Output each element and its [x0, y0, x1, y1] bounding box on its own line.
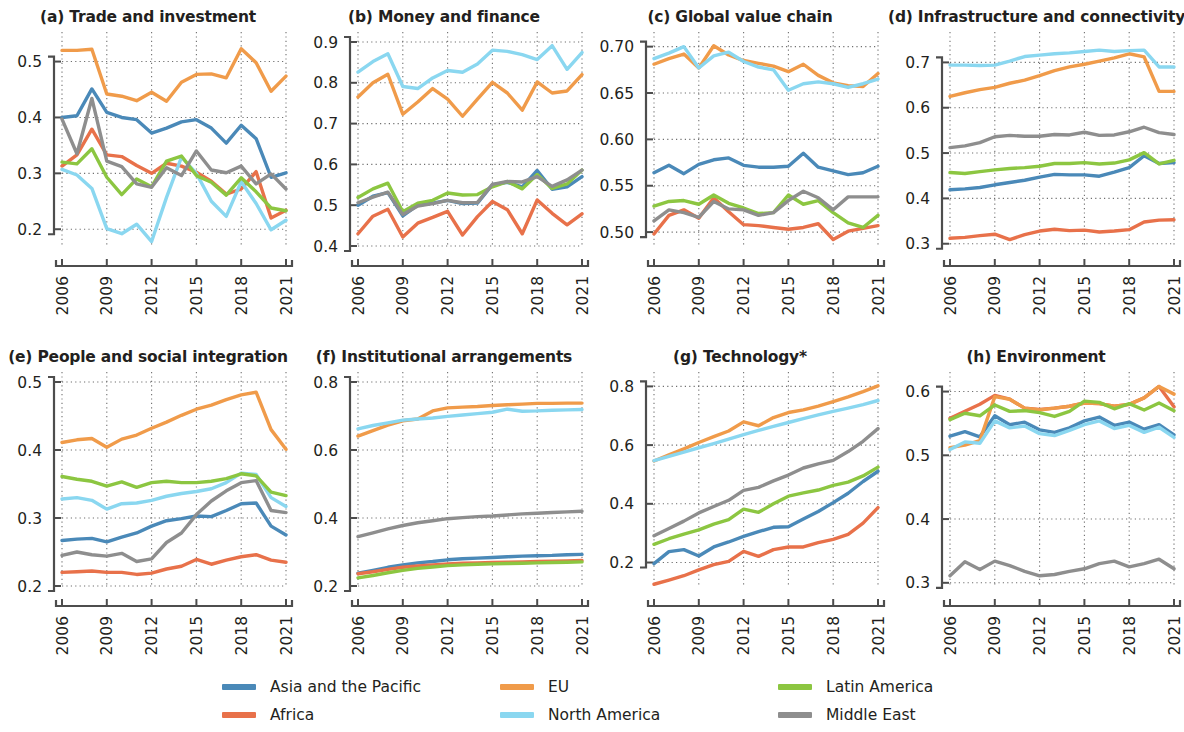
x-tick-label: 2006: [646, 616, 664, 655]
series-line-eu: [950, 54, 1174, 97]
y-tick-label: 0.4: [609, 495, 634, 513]
x-tick-label: 2018: [233, 276, 251, 315]
x-tick-label: 2018: [529, 276, 547, 315]
panel-a-x-tick-labels: 200620092012201520182021: [54, 276, 296, 315]
x-tick-label: 2009: [98, 616, 116, 655]
panel-a-plot: 0.20.30.40.5200620092012201520182021: [0, 34, 296, 330]
x-tick-label: 2009: [986, 276, 1004, 315]
x-tick-label: 2006: [942, 276, 960, 315]
legend-item-africa[interactable]: Africa: [222, 704, 314, 726]
series-line-africa: [358, 200, 582, 237]
series-line-africa: [62, 555, 286, 575]
panel-d-axes: [936, 57, 1180, 266]
series-line-latin-america: [950, 153, 1174, 174]
x-tick-label: 2009: [394, 616, 412, 655]
legend-label: EU: [548, 678, 569, 696]
panel-d-series-group: [950, 50, 1174, 239]
x-tick-label: 2015: [188, 276, 206, 315]
legend-label: Latin America: [826, 678, 933, 696]
y-tick-label: 0.4: [313, 238, 338, 256]
legend-item-north-america[interactable]: North America: [500, 704, 660, 726]
x-tick-label: 2018: [1121, 616, 1139, 655]
y-tick-label: 0.5: [905, 145, 930, 163]
legend-item-latin-america[interactable]: Latin America: [778, 676, 933, 698]
legend-swatch-icon: [222, 684, 256, 690]
x-tick-label: 2006: [942, 616, 960, 655]
panel-b-series-group: [358, 46, 582, 237]
x-tick-label: 2006: [54, 616, 72, 655]
y-tick-label: 0.3: [905, 574, 930, 592]
panel-f: (f) Institutional arrangements0.20.40.60…: [296, 348, 592, 670]
legend-swatch-icon: [500, 684, 534, 690]
chart-legend: Asia and the PacificAfricaEUNorth Americ…: [222, 676, 982, 732]
panel-a-series-group: [62, 49, 286, 242]
x-tick-label: 2021: [574, 616, 592, 655]
panel-b: (b) Money and finance0.40.50.60.70.80.92…: [296, 8, 592, 330]
panel-h-gridlines: [950, 372, 1174, 586]
y-tick-label: 0.2: [17, 221, 42, 239]
panel-b-x-tick-labels: 200620092012201520182021: [350, 276, 592, 315]
panel-b-title: (b) Money and finance: [296, 8, 592, 26]
panel-h-title: (h) Environment: [888, 348, 1184, 366]
x-tick-label: 2015: [484, 276, 502, 315]
panel-e: (e) People and social integration0.20.30…: [0, 348, 296, 670]
panel-h-plot: 0.30.40.50.6200620092012201520182021: [888, 374, 1184, 670]
x-tick-label: 2021: [870, 276, 888, 315]
panel-g-x-tick-labels: 200620092012201520182021: [646, 616, 888, 655]
y-tick-label: 0.2: [609, 554, 634, 572]
panel-h-series-group: [950, 386, 1174, 575]
panel-f-series-group: [358, 403, 582, 578]
series-line-middle-east: [358, 511, 582, 537]
y-tick-label: 0.7: [905, 54, 930, 72]
panel-e-y-tick-labels: 0.20.30.40.5: [17, 374, 42, 596]
y-tick-label: 0.4: [313, 510, 338, 528]
panel-e-series-group: [62, 392, 286, 574]
x-tick-label: 2018: [825, 616, 843, 655]
panel-a: (a) Trade and investment0.20.30.40.52006…: [0, 8, 296, 330]
y-tick-label: 0.50: [599, 224, 634, 242]
panel-f-x-tick-labels: 200620092012201520182021: [350, 616, 592, 655]
panel-c-series-group: [654, 46, 878, 240]
legend-item-asia-and-the-pacific[interactable]: Asia and the Pacific: [222, 676, 421, 698]
x-tick-label: 2012: [439, 616, 457, 655]
y-tick-label: 0.6: [609, 437, 634, 455]
y-tick-label: 0.4: [905, 511, 930, 529]
panel-c-plot: 0.500.550.600.650.7020062009201220152018…: [592, 34, 888, 330]
x-tick-label: 2018: [825, 276, 843, 315]
legend-item-middle-east[interactable]: Middle East: [778, 704, 916, 726]
x-tick-label: 2006: [646, 276, 664, 315]
panel-h-y-tick-labels: 0.30.40.50.6: [905, 383, 930, 592]
legend-item-eu[interactable]: EU: [500, 676, 569, 698]
y-tick-label: 0.8: [313, 374, 338, 392]
y-tick-label: 0.65: [599, 85, 634, 103]
panel-b-plot: 0.40.50.60.70.80.92006200920122015201820…: [296, 34, 592, 330]
panel-g-y-tick-labels: 0.20.40.60.8: [609, 378, 634, 572]
legend-label: Africa: [270, 706, 314, 724]
series-line-eu: [62, 392, 286, 449]
y-tick-label: 0.8: [609, 378, 634, 396]
x-tick-label: 2021: [1166, 616, 1184, 655]
panel-c-x-tick-labels: 200620092012201520182021: [646, 276, 888, 315]
multi-panel-line-chart-figure: (a) Trade and investment0.20.30.40.52006…: [0, 0, 1184, 732]
x-tick-label: 2009: [986, 616, 1004, 655]
panel-f-plot: 0.20.40.60.8200620092012201520182021: [296, 374, 592, 670]
panel-c-title: (c) Global value chain: [592, 8, 888, 26]
panel-d: (d) Infrastructure and connectivity0.30.…: [888, 8, 1184, 330]
x-tick-label: 2009: [394, 276, 412, 315]
y-tick-label: 0.4: [17, 109, 42, 127]
series-line-latin-america: [62, 474, 286, 496]
y-tick-label: 0.6: [905, 383, 930, 401]
x-tick-label: 2012: [439, 276, 457, 315]
panel-c: (c) Global value chain0.500.550.600.650.…: [592, 8, 888, 330]
panel-f-title: (f) Institutional arrangements: [296, 348, 592, 366]
x-tick-label: 2012: [143, 616, 161, 655]
y-tick-label: 0.3: [905, 235, 930, 253]
x-tick-label: 2018: [233, 616, 251, 655]
y-tick-label: 0.8: [313, 74, 338, 92]
x-tick-label: 2006: [350, 276, 368, 315]
panel-d-x-tick-labels: 200620092012201520182021: [942, 276, 1184, 315]
x-tick-label: 2018: [1121, 276, 1139, 315]
x-tick-label: 2021: [278, 276, 296, 315]
x-tick-label: 2021: [870, 616, 888, 655]
x-tick-label: 2012: [1031, 276, 1049, 315]
